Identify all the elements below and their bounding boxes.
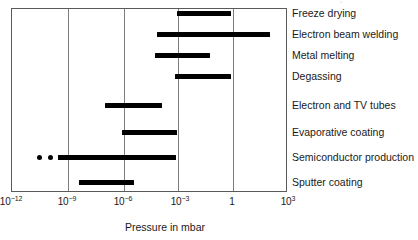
series-label-evaporative-coating: Evaporative coating [292, 126, 384, 138]
xtick-label-1e0: 1 [229, 196, 234, 207]
bar-sputter-coating [79, 180, 134, 185]
series-label-electron-beam-welding: Electron beam welding [292, 28, 398, 40]
bar-evaporative-coating [122, 130, 177, 135]
bar-degassing [175, 74, 231, 79]
marker-dot-semiconductor-1 [37, 155, 42, 160]
bar-electron-beam-welding [157, 32, 270, 37]
bar-semiconductor-production [58, 155, 176, 160]
series-label-sputter-coating: Sputter coating [292, 176, 363, 188]
xtick-label-1e3: 103 [281, 196, 296, 207]
bar-electron-and-tv-tubes [105, 103, 162, 108]
x-axis-title: Pressure in mbar [125, 221, 205, 233]
bar-freeze-drying [177, 11, 231, 16]
series-label-freeze-drying: Freeze drying [292, 7, 356, 19]
xtick-label-1e-6: 10−6 [114, 196, 133, 207]
xtick-label-1e-3: 10−3 [171, 196, 190, 207]
gridline-1e-6 [124, 9, 125, 191]
series-label-electron-and-tv-tubes: Electron and TV tubes [292, 99, 396, 111]
bar-metal-melting [155, 53, 210, 58]
scan-artifact: ° [340, 0, 342, 6]
xtick-label-1e-9: 10−9 [58, 196, 77, 207]
series-label-metal-melting: Metal melting [292, 49, 354, 61]
series-label-degassing: Degassing [292, 70, 342, 82]
pressure-range-chart: ° 10−12 10−9 10−6 10−3 1 103 Pressure in… [0, 0, 418, 240]
marker-dot-semiconductor-2 [48, 155, 53, 160]
gridline-1e-9 [68, 9, 69, 191]
series-label-semiconductor-production: Semiconductor production [292, 151, 414, 163]
xtick-label-1e-12: 10−12 [0, 196, 22, 207]
